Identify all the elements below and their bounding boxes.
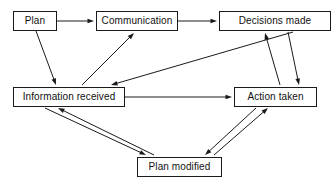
edge-decisions-to-info [116, 32, 293, 84]
edge-planmod-to-action [214, 111, 264, 155]
node-plan-modified[interactable]: Plan modified [137, 157, 222, 177]
node-information-received[interactable]: Information received [13, 87, 125, 107]
arrowhead-comm-to-decisions [211, 19, 218, 24]
arrowhead-plan-to-info [52, 78, 56, 85]
arrowhead-plan-to-comm [88, 19, 95, 24]
node-communication[interactable]: Communication [96, 11, 178, 31]
node-action-taken-label: Action taken [247, 92, 303, 102]
edge-planmod-to-info [62, 110, 154, 155]
arrowhead-decisions-to-action [295, 78, 300, 85]
node-plan-modified-label: Plan modified [149, 162, 211, 172]
node-information-received-label: Information received [23, 92, 116, 102]
node-plan[interactable]: Plan [13, 11, 57, 31]
arrowhead-info-to-action [226, 95, 233, 100]
edge-action-to-decisions [266, 38, 280, 85]
arrowhead-planmod-to-info [58, 108, 65, 113]
node-decisions-made[interactable]: Decisions made [219, 11, 331, 31]
edge-decisions-to-action [288, 32, 298, 80]
flowchart-canvas: Plan Communication Decisions made Inform… [0, 0, 336, 184]
edge-action-to-planmod [209, 108, 256, 152]
node-plan-label: Plan [25, 16, 45, 26]
edge-plan-to-info [36, 31, 54, 80]
edge-info-to-comm [82, 37, 130, 85]
node-action-taken[interactable]: Action taken [234, 87, 317, 107]
edge-info-to-planmod [45, 108, 141, 153]
node-decisions-made-label: Decisions made [239, 16, 312, 26]
node-communication-label: Communication [102, 16, 173, 26]
arrowhead-decisions-to-info [111, 81, 118, 85]
